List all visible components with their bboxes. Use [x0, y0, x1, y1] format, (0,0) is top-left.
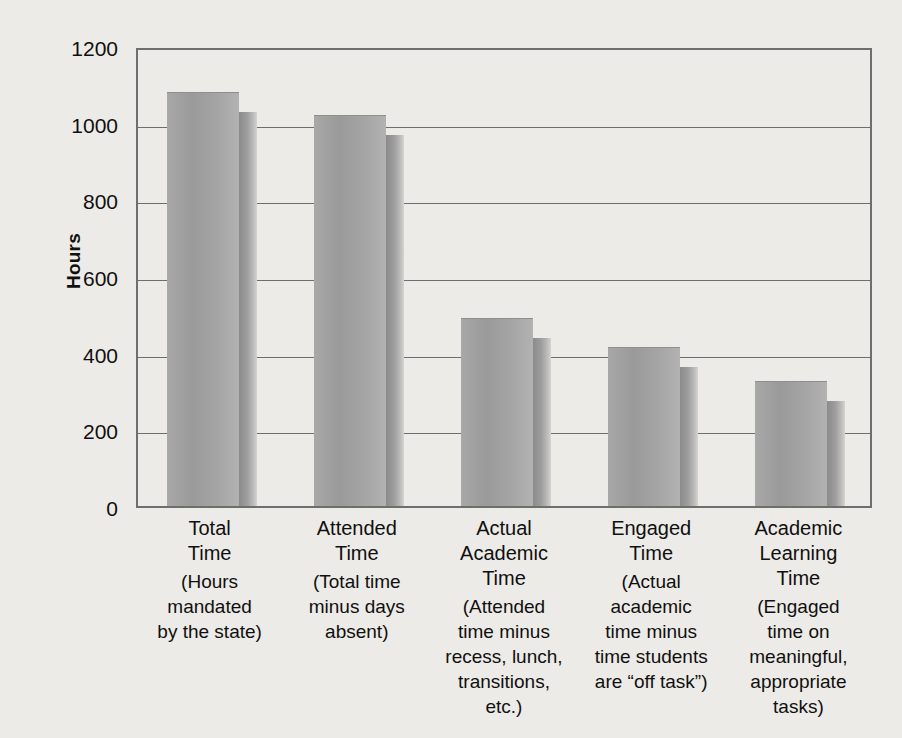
x-category: Academic Learning Time(Engaged time on m…: [725, 516, 872, 719]
x-category: Attended Time(Total time minus days abse…: [283, 516, 430, 644]
x-category-description: (Actual academic time minus time student…: [578, 569, 725, 694]
bar-shadow: [680, 367, 698, 506]
x-category: Actual Academic Time(Attended time minus…: [430, 516, 577, 719]
x-category-description: (Attended time minus recess, lunch, tran…: [430, 594, 577, 719]
y-tick-label: 400: [83, 344, 118, 365]
bar[interactable]: [461, 318, 551, 506]
y-tick-label: 1000: [71, 114, 118, 135]
chart-figure: Hours 120010008006004002000 Total Time(H…: [0, 0, 902, 738]
bar-face: [755, 381, 827, 506]
x-category-description: (Engaged time on meaningful, appropriate…: [725, 594, 872, 719]
x-category: Engaged Time(Actual academic time minus …: [578, 516, 725, 694]
bar-shadow: [239, 112, 257, 506]
plot-area: [136, 48, 872, 508]
bar-series: [138, 50, 870, 506]
bar-face: [314, 115, 386, 506]
x-category-name: Total Time: [136, 516, 283, 566]
x-category-name: Engaged Time: [578, 516, 725, 566]
bar-shadow: [386, 135, 404, 506]
bar-face: [608, 347, 680, 506]
bar[interactable]: [608, 347, 698, 506]
y-tick-label: 0: [106, 498, 118, 519]
x-category-description: (Hours mandated by the state): [136, 569, 283, 644]
y-tick-label: 800: [83, 191, 118, 212]
x-category-name: Academic Learning Time: [725, 516, 872, 591]
bar[interactable]: [167, 92, 257, 506]
y-tick-label: 600: [83, 268, 118, 289]
bar[interactable]: [755, 381, 845, 506]
y-axis-tick-labels: 120010008006004002000: [36, 48, 128, 508]
y-tick-label: 1200: [71, 38, 118, 59]
bar-shadow: [533, 338, 551, 506]
x-category: Total Time(Hours mandated by the state): [136, 516, 283, 644]
bar-face: [167, 92, 239, 506]
bar-shadow: [827, 401, 845, 506]
x-category-name: Actual Academic Time: [430, 516, 577, 591]
x-axis-category-labels: Total Time(Hours mandated by the state)A…: [136, 516, 872, 731]
x-category-name: Attended Time: [283, 516, 430, 566]
y-tick-label: 200: [83, 421, 118, 442]
bar-face: [461, 318, 533, 506]
bar[interactable]: [314, 115, 404, 506]
x-category-description: (Total time minus days absent): [283, 569, 430, 644]
